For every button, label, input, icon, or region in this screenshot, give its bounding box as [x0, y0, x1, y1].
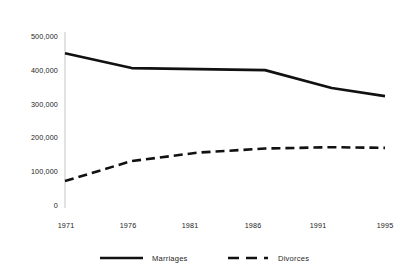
- chart-canvas: 500,000 400,000 300,000 200,000 100,000 …: [0, 0, 412, 280]
- y-tick-label-100000: 100,000: [31, 167, 58, 176]
- legend-label-divorces: Divorces: [278, 254, 309, 263]
- x-tick-label-1971: 1971: [58, 221, 75, 230]
- x-tick-label-1976: 1976: [120, 221, 137, 230]
- y-tick-label-200000: 200,000: [31, 133, 58, 142]
- y-tick-label-400000: 400,000: [31, 66, 58, 75]
- line-chart: 500,000 400,000 300,000 200,000 100,000 …: [0, 0, 412, 280]
- x-tick-label-1995: 1995: [377, 221, 394, 230]
- legend-label-marriages: Marriages: [152, 254, 188, 263]
- y-tick-label-0: 0: [54, 201, 58, 210]
- x-tick-label-1986: 1986: [245, 221, 262, 230]
- chart-background: [0, 0, 412, 280]
- x-tick-label-1991: 1991: [310, 221, 327, 230]
- y-tick-label-500000: 500,000: [31, 32, 58, 41]
- x-tick-label-1981: 1981: [182, 221, 199, 230]
- y-tick-label-300000: 300,000: [31, 100, 58, 109]
